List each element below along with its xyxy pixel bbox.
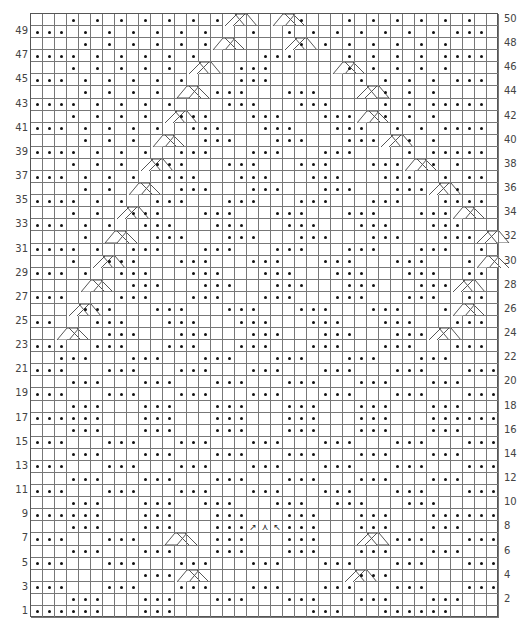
purl-stitch <box>259 316 271 328</box>
knit-stitch <box>487 570 499 582</box>
purl-stitch <box>439 280 451 292</box>
purl-stitch <box>31 533 43 545</box>
knit-stitch <box>331 449 343 461</box>
knit-stitch <box>487 292 499 304</box>
knit-stitch <box>403 521 415 533</box>
purl-stitch <box>175 256 187 268</box>
decrease-symbol-icon: ⋏ <box>259 521 271 533</box>
knit-stitch <box>115 183 127 195</box>
purl-stitch <box>319 38 331 50</box>
knit-stitch <box>331 14 343 26</box>
knit-stitch <box>451 461 463 473</box>
knit-stitch <box>427 570 439 582</box>
knit-stitch <box>331 207 343 219</box>
knit-stitch <box>355 147 367 159</box>
knit-stitch <box>391 219 403 231</box>
knit-stitch <box>271 99 283 111</box>
knit-stitch <box>67 26 79 38</box>
purl-stitch <box>223 546 235 558</box>
knit-stitch <box>259 304 271 316</box>
knit-stitch <box>379 437 391 449</box>
knit-stitch <box>367 26 379 38</box>
knit-stitch <box>415 509 427 521</box>
purl-stitch <box>271 437 283 449</box>
purl-stitch <box>175 26 187 38</box>
knit-stitch <box>355 195 367 207</box>
knit-stitch <box>463 352 475 364</box>
purl-stitch <box>283 280 295 292</box>
purl-stitch <box>79 376 91 388</box>
knit-stitch <box>175 123 187 135</box>
purl-stitch <box>67 425 79 437</box>
knit-stitch <box>367 99 379 111</box>
purl-stitch <box>307 99 319 111</box>
knit-stitch <box>79 558 91 570</box>
knit-stitch <box>31 594 43 606</box>
purl-stitch <box>331 26 343 38</box>
purl-stitch <box>379 425 391 437</box>
chart-row <box>31 280 499 292</box>
knit-stitch <box>127 509 139 521</box>
knit-stitch <box>403 473 415 485</box>
knit-stitch <box>367 86 379 98</box>
purl-stitch <box>295 159 307 171</box>
knit-stitch <box>331 159 343 171</box>
purl-stitch <box>403 606 415 618</box>
purl-stitch <box>283 292 295 304</box>
knit-stitch <box>223 292 235 304</box>
knit-stitch <box>319 497 331 509</box>
purl-stitch <box>103 183 115 195</box>
knit-stitch <box>175 521 187 533</box>
purl-stitch <box>43 388 55 400</box>
purl-stitch <box>391 256 403 268</box>
knit-stitch <box>451 485 463 497</box>
purl-stitch <box>79 74 91 86</box>
knit-stitch <box>379 183 391 195</box>
knit-stitch <box>187 473 199 485</box>
knit-stitch <box>367 485 379 497</box>
knit-stitch <box>355 38 367 50</box>
purl-stitch <box>463 437 475 449</box>
purl-stitch <box>427 111 439 123</box>
purl-stitch <box>487 485 499 497</box>
knit-stitch <box>295 328 307 340</box>
knit-stitch <box>367 292 379 304</box>
knit-stitch <box>475 546 487 558</box>
knit-stitch <box>379 485 391 497</box>
knit-stitch <box>331 231 343 243</box>
purl-stitch <box>271 388 283 400</box>
knit-stitch <box>139 38 151 50</box>
knit-stitch <box>211 159 223 171</box>
knit-stitch <box>79 582 91 594</box>
knit-stitch <box>31 570 43 582</box>
knit-stitch <box>367 123 379 135</box>
purl-stitch <box>307 594 319 606</box>
purl-stitch <box>199 123 211 135</box>
purl-stitch <box>379 376 391 388</box>
purl-stitch <box>403 292 415 304</box>
knit-stitch <box>127 570 139 582</box>
purl-stitch <box>79 425 91 437</box>
purl-stitch <box>43 26 55 38</box>
knit-stitch <box>259 135 271 147</box>
knit-stitch <box>295 26 307 38</box>
purl-stitch <box>367 352 379 364</box>
purl-stitch <box>475 147 487 159</box>
purl-stitch <box>259 74 271 86</box>
knit-stitch <box>151 558 163 570</box>
knit-stitch <box>199 521 211 533</box>
knit-stitch <box>427 437 439 449</box>
purl-stitch <box>475 509 487 521</box>
knit-stitch <box>463 86 475 98</box>
knit-stitch <box>487 497 499 509</box>
knit-stitch <box>211 256 223 268</box>
purl-stitch <box>475 171 487 183</box>
knit-stitch <box>367 533 379 545</box>
knit-stitch <box>127 376 139 388</box>
knit-stitch <box>151 364 163 376</box>
purl-stitch <box>463 388 475 400</box>
purl-stitch <box>91 497 103 509</box>
purl-stitch <box>427 509 439 521</box>
knit-stitch <box>427 388 439 400</box>
purl-stitch <box>79 401 91 413</box>
